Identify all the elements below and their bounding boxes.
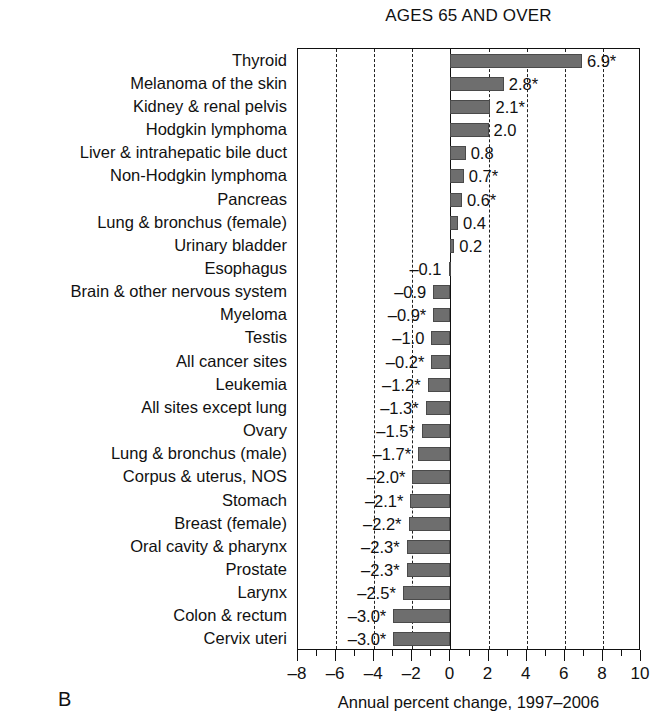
category-label: Oral cavity & pharynx bbox=[130, 538, 287, 555]
bar-value-label: –0.9 bbox=[394, 284, 426, 301]
x-tick-minor bbox=[392, 650, 393, 656]
x-tick-label: 10 bbox=[631, 664, 650, 684]
x-tick-label: –6 bbox=[326, 664, 345, 684]
category-label: Brain & other nervous system bbox=[71, 283, 287, 300]
bar-value-label: –2.1* bbox=[365, 492, 404, 509]
bar-value-label: –0.2* bbox=[386, 353, 425, 370]
bar-row: –1.3* bbox=[298, 401, 639, 415]
bar bbox=[403, 586, 451, 600]
category-label: Kidney & renal pelvis bbox=[133, 98, 287, 115]
category-label: Myeloma bbox=[220, 306, 287, 323]
bar-rows: 6.9*2.8*2.1*2.00.80.7*0.6*0.40.2–0.1–0.9… bbox=[298, 49, 639, 649]
category-label: All sites except lung bbox=[141, 399, 287, 416]
x-axis-title: Annual percent change, 1997–2006 bbox=[297, 693, 640, 712]
category-label: Leukemia bbox=[215, 375, 287, 392]
bar-value-label: –3.0* bbox=[348, 631, 387, 648]
x-tick-minor bbox=[430, 650, 431, 656]
category-label: Esophagus bbox=[204, 260, 287, 277]
bar bbox=[450, 216, 458, 230]
bar bbox=[450, 123, 488, 137]
x-tick-minor bbox=[354, 650, 355, 656]
bar bbox=[407, 540, 451, 554]
x-tick-major bbox=[411, 650, 412, 661]
bar bbox=[450, 146, 465, 160]
bar bbox=[433, 308, 450, 322]
bar bbox=[450, 54, 581, 68]
panel-letter: B bbox=[58, 688, 71, 711]
x-tick-major bbox=[602, 650, 603, 661]
bar-row: –1.2* bbox=[298, 378, 639, 392]
bar-row: 0.4 bbox=[298, 216, 639, 230]
bar-value-label: –1.3* bbox=[380, 400, 419, 417]
category-label: All cancer sites bbox=[176, 352, 287, 369]
category-axis-labels: ThyroidMelanoma of the skinKidney & rena… bbox=[0, 48, 292, 650]
category-label: Liver & intrahepatic bile duct bbox=[80, 144, 287, 161]
x-tick-major bbox=[335, 650, 336, 661]
bar bbox=[433, 285, 450, 299]
category-label: Colon & rectum bbox=[173, 607, 287, 624]
bar bbox=[450, 77, 503, 91]
category-label: Corpus & uterus, NOS bbox=[123, 468, 287, 485]
bar-row: –2.2* bbox=[298, 517, 639, 531]
x-tick-minor bbox=[469, 650, 470, 656]
x-axis: –8–6–4–20246810 bbox=[297, 650, 640, 662]
bar-row: 0.6* bbox=[298, 193, 639, 207]
bar-row: –1.0 bbox=[298, 331, 639, 345]
bar-row: 6.9* bbox=[298, 54, 639, 68]
category-label: Larynx bbox=[237, 584, 287, 601]
bar-row: 0.8 bbox=[298, 146, 639, 160]
x-tick-major bbox=[526, 650, 527, 661]
bar bbox=[393, 609, 450, 623]
bar-value-label: –1.7* bbox=[373, 446, 412, 463]
bar bbox=[407, 563, 451, 577]
bar-row: 2.8* bbox=[298, 77, 639, 91]
category-label: Urinary bladder bbox=[174, 237, 287, 254]
bar bbox=[431, 355, 450, 369]
bar bbox=[450, 100, 490, 114]
bar-row: –2.1* bbox=[298, 494, 639, 508]
bar-value-label: –3.0* bbox=[348, 608, 387, 625]
plot-area: 6.9*2.8*2.1*2.00.80.7*0.6*0.40.2–0.1–0.9… bbox=[297, 48, 640, 650]
bar-value-label: –1.0 bbox=[392, 330, 424, 347]
bar bbox=[393, 632, 450, 646]
bar bbox=[409, 517, 451, 531]
x-tick-major bbox=[297, 650, 298, 661]
x-tick-label: 6 bbox=[559, 664, 568, 684]
bar-value-label: 2.1* bbox=[495, 99, 524, 116]
bar-value-label: 0.8 bbox=[471, 145, 494, 162]
x-tick-label: 4 bbox=[521, 664, 530, 684]
x-tick-label: –2 bbox=[402, 664, 421, 684]
x-tick-label: –4 bbox=[364, 664, 383, 684]
bar-value-label: –2.3* bbox=[361, 539, 400, 556]
bar-row: –1.5* bbox=[298, 424, 639, 438]
bar-value-label: 2.0 bbox=[494, 122, 517, 139]
bar-value-label: 2.8* bbox=[509, 75, 538, 92]
x-tick-major bbox=[564, 650, 565, 661]
bar-row: 2.1* bbox=[298, 100, 639, 114]
x-tick-label: 8 bbox=[597, 664, 606, 684]
x-tick-label: 2 bbox=[483, 664, 492, 684]
x-tick-minor bbox=[507, 650, 508, 656]
bar bbox=[412, 470, 450, 484]
bar-row: –3.0* bbox=[298, 632, 639, 646]
bar-value-label: –1.2* bbox=[382, 376, 421, 393]
bar-value-label: –2.5* bbox=[357, 585, 396, 602]
bar-value-label: 0.2 bbox=[459, 238, 482, 255]
category-label: Melanoma of the skin bbox=[130, 74, 287, 91]
bar bbox=[418, 447, 450, 461]
bar bbox=[428, 378, 451, 392]
bar-value-label: –2.2* bbox=[363, 515, 402, 532]
bar-value-label: 0.6* bbox=[467, 191, 496, 208]
bar-row: –0.1 bbox=[298, 262, 639, 276]
category-label: Hodgkin lymphoma bbox=[146, 121, 287, 138]
category-label: Breast (female) bbox=[174, 514, 287, 531]
bar bbox=[426, 401, 451, 415]
category-label: Prostate bbox=[226, 561, 287, 578]
category-label: Thyroid bbox=[232, 51, 287, 68]
bar bbox=[431, 331, 450, 345]
bar-row: –0.2* bbox=[298, 355, 639, 369]
x-tick-major bbox=[373, 650, 374, 661]
bar bbox=[410, 494, 450, 508]
category-label: Lung & bronchus (male) bbox=[111, 445, 287, 462]
x-tick-minor bbox=[583, 650, 584, 656]
